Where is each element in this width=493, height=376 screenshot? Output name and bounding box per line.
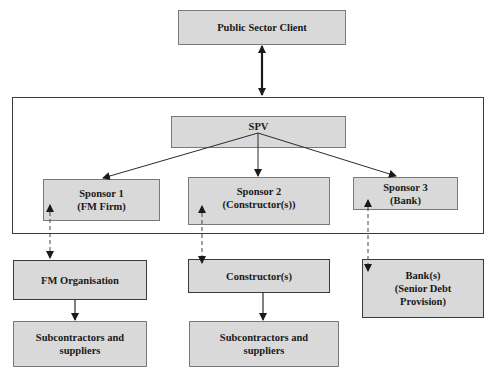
banks-subtitle-1: (Senior Debt: [395, 282, 452, 295]
spv-box: SPV: [171, 116, 346, 148]
sponsor-2-subtitle: (Constructor(s)): [223, 198, 296, 211]
banks-subtitle-2: Provision): [400, 295, 446, 308]
sponsor-2-box: Sponsor 2 (Constructor(s)): [188, 177, 330, 225]
sponsor-1-subtitle: (FM Firm): [77, 200, 126, 213]
public-sector-client-label: Public Sector Client: [217, 21, 307, 34]
spv-label: SPV: [249, 120, 269, 133]
subcontractors-constructor-line-2: suppliers: [244, 344, 285, 357]
constructors-box: Constructor(s): [188, 259, 330, 293]
subcontractors-constructor-box: Subcontractors and suppliers: [189, 321, 339, 367]
fm-organisation-box: FM Organisation: [13, 260, 147, 300]
sponsor-1-box: Sponsor 1 (FM Firm): [43, 179, 160, 221]
banks-title: Bank(s): [405, 269, 440, 282]
banks-box: Bank(s) (Senior Debt Provision): [362, 259, 484, 318]
sponsor-1-title: Sponsor 1: [79, 187, 123, 200]
sponsor-3-title: Sponsor 3: [383, 181, 427, 194]
subcontractors-constructor-line-1: Subcontractors and: [220, 331, 308, 344]
public-sector-client-box: Public Sector Client: [178, 10, 346, 45]
constructors-label: Constructor(s): [226, 270, 292, 283]
subcontractors-fm-line-2: suppliers: [60, 344, 101, 357]
sponsor-2-title: Sponsor 2: [237, 185, 281, 198]
subcontractors-fm-box: Subcontractors and suppliers: [13, 321, 147, 367]
fm-organisation-label: FM Organisation: [41, 274, 119, 287]
sponsor-3-subtitle: (Bank): [390, 194, 421, 207]
subcontractors-fm-line-1: Subcontractors and: [36, 331, 124, 344]
sponsor-3-box: Sponsor 3 (Bank): [353, 177, 458, 210]
